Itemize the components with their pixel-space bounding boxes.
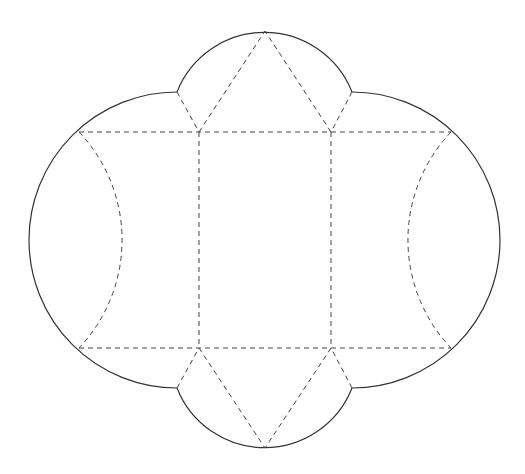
bottom-left-junction-fold [177,348,199,388]
bottom-right-junction-fold [331,348,352,388]
cut-outline [29,32,500,447]
left-inner-arc-fold [79,132,122,348]
top-left-junction-fold [177,92,199,132]
fold-lines [79,31,451,448]
bottom-tab-right-fold [265,348,331,448]
top-right-junction-fold [331,92,352,132]
bottom-tab-left-fold [199,348,265,448]
bottom-arc-cut [177,388,352,448]
right-arc-cut [352,92,500,388]
top-tab-left-fold [199,31,265,132]
box-net-diagram [0,0,525,474]
left-arc-cut [29,92,177,388]
top-tab-right-fold [265,31,331,132]
top-arc-cut [177,32,352,92]
diagram-svg [0,0,525,474]
right-inner-arc-fold [408,132,451,348]
